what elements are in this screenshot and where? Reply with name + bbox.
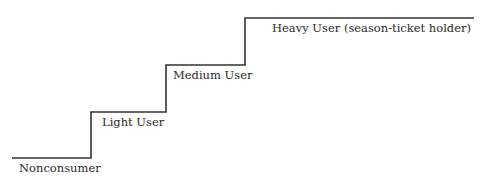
step-label-light-user: Light User	[102, 117, 164, 129]
staircase-line	[12, 18, 474, 158]
step-label-heavy-user: Heavy User (season-ticket holder)	[272, 23, 471, 35]
step-label-nonconsumer: Nonconsumer	[19, 163, 101, 175]
step-label-medium-user: Medium User	[173, 70, 252, 82]
